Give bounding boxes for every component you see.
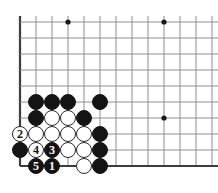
go-board-diagram: 24351 bbox=[0, 0, 218, 193]
star-point bbox=[161, 115, 166, 120]
grid-lines bbox=[20, 16, 218, 166]
star-point bbox=[65, 19, 70, 24]
board-grid bbox=[0, 0, 218, 193]
star-point bbox=[161, 19, 166, 24]
